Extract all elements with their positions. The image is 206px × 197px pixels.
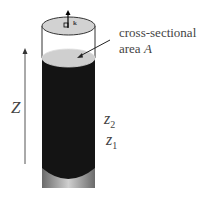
z1-label: z1 <box>105 131 117 151</box>
z2-label: z2 <box>103 110 115 130</box>
k-label: k <box>73 19 77 27</box>
cross-sectional-label: cross-sectional <box>119 25 197 40</box>
z-axis-arrowhead-icon <box>23 48 28 54</box>
diagram-canvas: k cross-sectional area A Z z2 z1 <box>0 0 206 197</box>
cylinder-diagram: k cross-sectional area A Z z2 z1 <box>0 0 206 197</box>
area-label: area A <box>119 41 152 56</box>
dark-column <box>42 58 95 179</box>
z-axis-label: Z <box>11 98 21 117</box>
k-arrowhead-icon <box>66 10 71 15</box>
